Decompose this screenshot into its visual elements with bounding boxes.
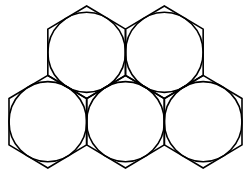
inscribed-circle: [87, 82, 165, 162]
hex-top-right: [125, 6, 203, 99]
inscribed-circle: [48, 12, 126, 92]
inscribed-circle: [164, 82, 242, 162]
hexagon-outline: [126, 6, 204, 99]
hex-top-left: [48, 6, 126, 99]
inscribed-circle: [9, 82, 87, 162]
hex-bottom-left: [9, 75, 87, 168]
hexagon-outline: [48, 6, 126, 99]
hexagon-outline: [87, 75, 165, 168]
inscribed-circle: [125, 12, 203, 92]
hexagon-outline: [9, 75, 87, 168]
hexagon-circle-diagram: [9, 6, 242, 168]
hex-bottom-middle: [87, 75, 165, 168]
hex-bottom-right: [164, 75, 242, 168]
hexagon-outline: [164, 75, 242, 168]
hexagon-circle-figure: [9, 6, 242, 168]
